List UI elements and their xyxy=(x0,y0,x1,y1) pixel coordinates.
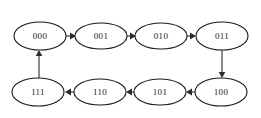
node-label: 010 xyxy=(154,31,169,41)
node-label: 011 xyxy=(215,31,229,41)
arrowhead-right-icon xyxy=(190,33,196,40)
edge-101-to-110 xyxy=(126,89,134,96)
arrowhead-left-icon xyxy=(65,89,71,96)
edge-010-to-011 xyxy=(187,33,196,40)
edge-100-to-101 xyxy=(186,89,195,96)
arrowhead-up-icon xyxy=(36,50,43,56)
node-010[interactable]: 010 xyxy=(135,23,187,49)
arrowhead-left-icon xyxy=(186,89,192,96)
node-label: 101 xyxy=(153,87,167,97)
node-111[interactable]: 111 xyxy=(12,78,64,106)
node-label: 111 xyxy=(31,87,45,97)
state-transition-diagram: 000 001 010 011 111 110 101 xyxy=(0,0,261,118)
diagram-canvas: 000 001 010 011 111 110 101 xyxy=(0,0,261,118)
node-100[interactable]: 100 xyxy=(195,78,247,106)
node-label: 110 xyxy=(93,87,107,97)
arrowhead-left-icon xyxy=(126,89,132,96)
node-001[interactable]: 001 xyxy=(75,23,127,49)
node-label: 000 xyxy=(33,31,48,41)
node-101[interactable]: 101 xyxy=(134,79,186,105)
node-label: 100 xyxy=(214,87,229,97)
node-label: 001 xyxy=(94,31,108,41)
edge-110-to-111 xyxy=(65,89,74,96)
edge-111-to-000 xyxy=(36,50,43,78)
node-110[interactable]: 110 xyxy=(74,79,126,105)
edge-011-to-100 xyxy=(219,50,226,78)
node-000[interactable]: 000 xyxy=(14,22,66,50)
arrowhead-down-icon xyxy=(219,72,226,78)
node-011[interactable]: 011 xyxy=(196,22,248,50)
